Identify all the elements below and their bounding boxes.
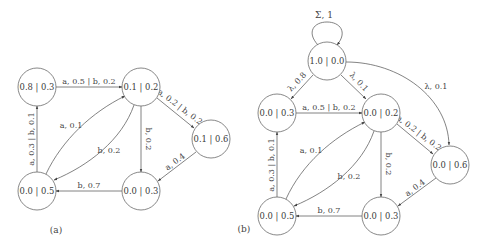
state-node-b-n2: 0.0 | 0.2 bbox=[362, 94, 400, 132]
state-node-b-n1: 0.0 | 0.3 bbox=[258, 94, 296, 132]
edge-label-b-n2-n3: a, 0.2 | b, 0.2 bbox=[395, 113, 443, 152]
state-node-a-n2: 0.1 | 0.2 bbox=[122, 68, 160, 106]
edge-label-b-n5-n4: b, 0.7 bbox=[318, 206, 341, 215]
caption-a: (a) bbox=[50, 225, 62, 235]
edge-label-b-n0-n3: λ, 0.1 bbox=[425, 82, 448, 91]
edge-label-b-n4-n2: a, 0.1 bbox=[300, 146, 323, 155]
edge-label-a-n4-n1: a, 0.3 | b, 0.1 bbox=[27, 112, 36, 165]
edge-a-n4-n2 bbox=[46, 96, 125, 174]
state-node-b-n3: 0.0 | 0.6 bbox=[431, 146, 469, 184]
state-label: 0.0 | 0.3 bbox=[364, 211, 399, 222]
edge-label-b-n0-n2: λ, 0.1 bbox=[348, 71, 370, 94]
state-node-b-n4: 0.0 | 0.5 bbox=[258, 197, 296, 235]
edge-label-a-n1-n2: a, 0.5 | b, 0.2 bbox=[62, 77, 115, 86]
state-label: 0.0 | 0.5 bbox=[260, 211, 295, 222]
state-node-a-n4: 0.0 | 0.5 bbox=[18, 172, 56, 210]
edge-label-b-n2-n5: b, 0.2 bbox=[384, 153, 393, 176]
edge-label-b-n0-self: Σ, 1 bbox=[315, 10, 333, 20]
state-node-a-n1: 0.8 | 0.3 bbox=[18, 68, 56, 106]
edge-label-a-n2-n5: b, 0.2 bbox=[144, 128, 153, 151]
state-label: 0.0 | 0.3 bbox=[260, 108, 295, 119]
edge-b-n0-self bbox=[312, 22, 342, 45]
edge-label-a-n2-n4: b, 0.2 bbox=[98, 146, 121, 155]
state-label: 1.0 | 0.0 bbox=[310, 56, 345, 67]
edge-b-n4-n2 bbox=[286, 122, 365, 199]
state-label: 0.0 | 0.2 bbox=[364, 108, 399, 119]
figure-b: Σ, 1 λ, 0.8 λ, 0.1 λ, 0.1 a, 0.5 | b, 0.… bbox=[238, 10, 469, 235]
edge-label-b-n3-n5: a, 0.4 bbox=[403, 178, 426, 199]
figure-a: a, 0.5 | b, 0.2 a, 0.2 | b, 0.2 b, 0.2 a… bbox=[18, 68, 230, 235]
edge-label-b-n1-n2: a, 0.5 | b, 0.2 bbox=[302, 103, 355, 112]
state-label: 0.1 | 0.2 bbox=[124, 82, 159, 93]
edge-label-b-n2-n4: b, 0.2 bbox=[338, 172, 361, 181]
state-label: 0.8 | 0.3 bbox=[20, 82, 55, 93]
state-node-a-n5: 0.0 | 0.3 bbox=[122, 172, 160, 210]
edge-label-b-n0-n1: λ, 0.8 bbox=[286, 71, 308, 94]
state-node-b-n5: 0.0 | 0.3 bbox=[362, 197, 400, 235]
state-label: 0.0 | 0.5 bbox=[20, 186, 55, 197]
caption-b: (b) bbox=[238, 224, 251, 234]
automaton-figure: a, 0.5 | b, 0.2 a, 0.2 | b, 0.2 b, 0.2 a… bbox=[0, 0, 482, 250]
state-label: 0.0 | 0.6 bbox=[433, 160, 468, 171]
state-label: 0.1 | 0.6 bbox=[194, 134, 229, 145]
diagram-svg: a, 0.5 | b, 0.2 a, 0.2 | b, 0.2 b, 0.2 a… bbox=[0, 0, 482, 250]
edge-b-n2-n4 bbox=[294, 131, 374, 206]
state-node-a-n3: 0.1 | 0.6 bbox=[192, 120, 230, 158]
edge-label-a-n2-n3: a, 0.2 | b, 0.2 bbox=[156, 87, 204, 126]
edge-label-b-n4-n1: a, 0.3 | b, 0.1 bbox=[267, 138, 276, 191]
edge-label-a-n4-n2: a, 0.1 bbox=[60, 121, 83, 130]
state-node-b-n0: 1.0 | 0.0 bbox=[308, 42, 346, 80]
edge-label-a-n5-n4: b, 0.7 bbox=[78, 181, 101, 190]
state-label: 0.0 | 0.3 bbox=[124, 186, 159, 197]
